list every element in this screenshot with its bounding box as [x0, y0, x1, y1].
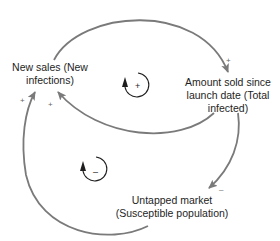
node-untapped-market-line-1: Untapped market	[110, 194, 234, 207]
node-untapped-market: Untapped market (Susceptible population)	[110, 194, 234, 220]
balancing-loop-sign: –	[93, 168, 98, 176]
node-new-sales-line-1: New sales (New	[8, 61, 92, 74]
polarity-amount-sold-to-new-sales: +	[48, 101, 53, 109]
reinforcing-loop-sign: +	[135, 82, 140, 90]
link-amount-sold-to-untapped-market	[209, 113, 239, 188]
node-amount-sold-line-1: Amount sold since	[180, 76, 276, 89]
node-amount-sold-line-3: infected)	[180, 102, 276, 115]
polarity-new-sales-to-amount-sold: +	[226, 57, 231, 65]
polarity-amount-sold-to-untapped-market: –	[219, 186, 223, 194]
node-new-sales: New sales (New infections)	[8, 61, 92, 87]
node-new-sales-line-2: infections)	[8, 74, 92, 87]
node-amount-sold: Amount sold since launch date (Total inf…	[180, 76, 276, 115]
node-amount-sold-line-2: launch date (Total	[180, 89, 276, 102]
node-untapped-market-line-2: (Susceptible population)	[110, 207, 234, 220]
polarity-untapped-market-to-new-sales: +	[20, 97, 25, 105]
